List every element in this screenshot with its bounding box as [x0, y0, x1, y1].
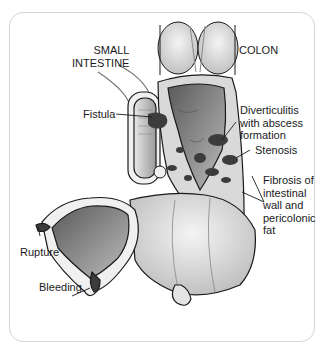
- label-colon: COLON: [239, 44, 278, 57]
- label-small-intestine: SMALL INTESTINE: [72, 44, 129, 69]
- upper-colon: [158, 22, 238, 75]
- label-stenosis: Stenosis: [255, 144, 297, 157]
- label-fibrosis: Fibrosis of intestinal wall and pericolo…: [263, 174, 316, 237]
- label-fistula: Fistula: [83, 108, 115, 121]
- label-diverticulitis: Diverticulitis with abscess formation: [240, 104, 303, 142]
- lower-colon: [130, 193, 255, 305]
- label-bleeding: Bleeding: [39, 281, 82, 294]
- label-rupture: Rupture: [20, 246, 59, 259]
